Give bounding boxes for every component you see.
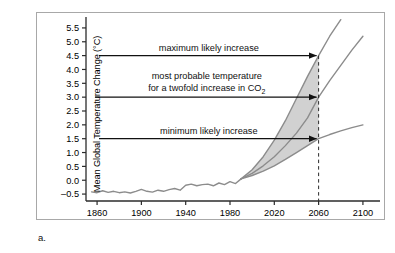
x-tick-label: 2060 [308,208,328,218]
y-tick-label: 2.0 [66,120,79,130]
x-tick-label: 1940 [175,208,195,218]
y-tick-label: 1.5 [66,134,79,144]
x-tick-label: 2020 [264,208,284,218]
chart-frame: Mean Global Temperature Change (°C) –0.5… [36,12,385,220]
panel-letter: a. [38,232,46,243]
figure-panel: Mean Global Temperature Change (°C) –0.5… [0,0,395,253]
y-tick-label: –0.5 [61,189,79,199]
y-tick-label: 5.5 [66,23,79,33]
y-tick-label: 3.0 [66,92,79,102]
y-tick-label: 5.0 [66,37,79,47]
x-tick-label: 1980 [220,208,240,218]
y-tick-label: 2.5 [66,106,79,116]
annotation-label-probable-line1: most probable temperature [152,71,262,81]
y-axis-title: Mean Global Temperature Change (°C) [92,14,102,214]
y-tick-label: 4.5 [66,51,79,61]
series-observed-record [92,179,242,193]
x-tick-label: 1900 [131,208,151,218]
y-tick-label: 4.0 [66,65,79,75]
y-tick-label: 0.5 [66,162,79,172]
y-tick-label: 3.5 [66,79,79,89]
annotation-label-min: minimum likely increase [160,126,258,136]
y-tick-label: 1.0 [66,148,79,158]
y-tick-label: 0.0 [66,176,79,186]
chart-canvas: –0.50.00.51.01.52.02.53.03.54.04.55.05.5… [37,13,384,219]
x-tick-label: 2100 [353,208,373,218]
annotation-label-probable-line2: for a twofold increase in CO2 [148,83,265,95]
annotation-label-max: maximum likely increase [159,43,259,53]
